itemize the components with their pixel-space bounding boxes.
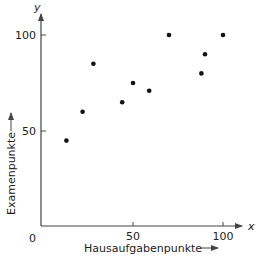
y-variable-label: y xyxy=(33,1,41,14)
x-tick-label: 100 xyxy=(213,230,234,243)
y-axis-title: Examenpunkte xyxy=(5,113,18,215)
ticks: 5010050100 xyxy=(15,29,234,243)
scatter-chart: x y 0 5010050100 Hausaufgabenpunkte Exam… xyxy=(0,0,260,260)
data-point xyxy=(131,81,136,86)
data-points xyxy=(64,33,225,143)
data-point xyxy=(167,33,172,38)
y-tick-label: 50 xyxy=(22,125,36,138)
data-point xyxy=(203,52,208,57)
data-point xyxy=(199,71,204,76)
y-tick-label: 100 xyxy=(15,29,36,42)
x-variable-label: x xyxy=(247,220,255,233)
data-point xyxy=(147,88,152,93)
x-axis-title: Hausaufgabenpunkte xyxy=(84,242,218,255)
data-point xyxy=(64,138,69,143)
origin-label: 0 xyxy=(29,232,36,245)
y-axis-title-text: Examenpunkte xyxy=(5,132,18,215)
x-axis-title-text: Hausaufgabenpunkte xyxy=(84,242,202,255)
data-point xyxy=(80,110,85,115)
data-point xyxy=(120,100,125,105)
data-point xyxy=(221,33,226,38)
data-point xyxy=(91,62,96,67)
plot-area: x y 0 5010050100 Hausaufgabenpunkte Exam… xyxy=(0,0,260,260)
